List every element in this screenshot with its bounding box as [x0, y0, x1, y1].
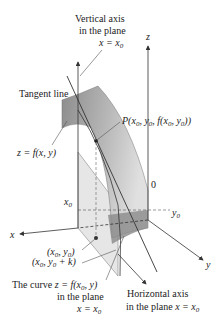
y-axis [148, 220, 203, 260]
origin-label: 0 [151, 179, 156, 190]
y0-label: y0 [171, 207, 180, 220]
surface-label: z = f(x, y) [16, 147, 57, 159]
horizontal-axis-in-plane [118, 254, 146, 284]
y-axis-label: y [205, 259, 211, 270]
horizontal-axis-label-1: Horizontal axis [127, 288, 188, 299]
z-axis-label: z [145, 31, 150, 42]
x0-label: x0 [63, 196, 72, 209]
vertical-axis-label-1: Vertical axis [75, 13, 125, 24]
x-axis-label: x [9, 229, 15, 240]
partial-derivative-diagram: z x y 0 x0 y0 Vertical axis in the plane… [0, 0, 221, 330]
curve-label-3: x = x0 [76, 303, 102, 316]
point-p-label: P(x0, y0, f(x0, y0)) [121, 115, 192, 128]
vertical-axis-label-3: x = x0 [98, 37, 124, 50]
tangent-line-label: Tangent line [19, 88, 69, 99]
curve-label-2: in the plane [57, 291, 104, 302]
horizontal-axis-label-2: in the plane x = x0 [126, 301, 200, 314]
vertical-axis-label-2: in the plane [79, 25, 126, 36]
